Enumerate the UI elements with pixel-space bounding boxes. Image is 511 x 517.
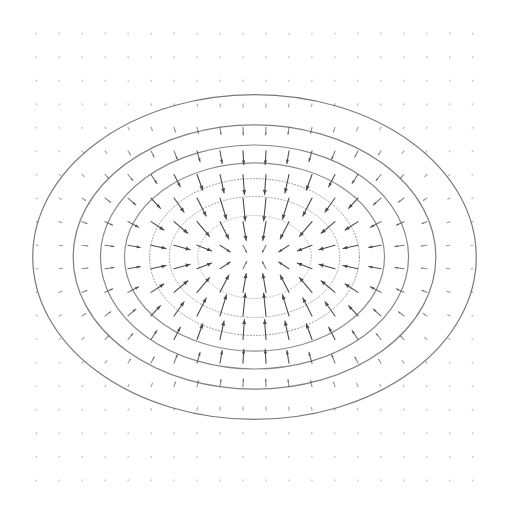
arrow-shaft — [151, 104, 152, 106]
vector-arrow — [59, 362, 60, 363]
arrow-head — [262, 274, 266, 279]
arrow-head — [329, 182, 332, 186]
contour-line-4 — [150, 179, 360, 336]
vector-arrow — [82, 151, 83, 152]
vector-arrow — [174, 408, 175, 410]
arrow-shaft — [380, 384, 381, 386]
arrow-shaft — [128, 384, 129, 386]
vector-arrow — [128, 333, 133, 339]
arrow-head — [345, 284, 350, 288]
vector-arrow — [472, 362, 473, 363]
vector-arrow — [82, 198, 86, 200]
vector-arrow — [174, 302, 184, 316]
arrow-shaft — [36, 362, 37, 363]
arrow-head — [198, 352, 201, 356]
vector-arrow — [59, 315, 61, 316]
arrow-head — [284, 321, 288, 326]
vector-arrow — [343, 245, 358, 249]
vector-arrow — [105, 127, 106, 128]
vector-arrow — [82, 80, 83, 81]
vector-arrow — [380, 384, 381, 386]
vector-arrow — [333, 382, 335, 387]
vector-arrow — [262, 245, 266, 252]
vector-arrow — [299, 222, 312, 237]
vector-arrow — [220, 174, 225, 192]
vector-arrow — [220, 275, 229, 292]
vector-arrow — [36, 174, 37, 175]
vector-arrow — [36, 362, 37, 363]
arrow-shaft — [59, 409, 60, 410]
vector-arrow — [151, 284, 164, 292]
arrow-shaft — [403, 409, 404, 410]
vector-arrow — [449, 386, 450, 387]
vector-arrow — [343, 265, 358, 269]
vector-arrow — [220, 198, 227, 219]
arrow-shaft — [472, 198, 473, 199]
arrow-shaft — [472, 174, 473, 175]
vector-arrow — [449, 151, 450, 152]
vector-arrow — [472, 104, 473, 105]
vector-arrow — [279, 245, 289, 252]
vector-arrow — [472, 57, 473, 58]
arrow-shaft — [128, 127, 129, 129]
arrow-head — [177, 182, 180, 186]
vector-arrow — [59, 198, 61, 199]
vector-arrow — [471, 292, 473, 293]
vector-arrow — [286, 350, 289, 363]
vector-arrow — [403, 127, 404, 128]
vector-arrow — [303, 298, 312, 316]
arrow-head — [242, 379, 244, 381]
contour-line-5 — [169, 197, 339, 318]
vector-arrow — [471, 222, 473, 223]
vector-arrow — [355, 357, 358, 363]
arrow-head — [221, 321, 225, 326]
arrow-shaft — [402, 361, 404, 364]
vector-arrow — [128, 384, 129, 386]
vector-arrow — [174, 355, 177, 364]
arrow-shaft — [36, 433, 37, 434]
arrow-shaft — [449, 104, 450, 105]
vector-arrow — [197, 324, 203, 340]
vector-arrow — [321, 281, 335, 293]
vector-arrow — [105, 385, 106, 386]
vector-arrow — [376, 174, 381, 180]
arrow-shaft — [403, 385, 404, 386]
vector-arrow — [376, 333, 381, 339]
vector-arrow — [282, 198, 289, 219]
vector-arrow — [151, 174, 157, 183]
arrow-head — [263, 190, 267, 195]
arrow-shaft — [426, 104, 427, 105]
vector-arrow — [151, 104, 152, 106]
vector-arrow — [59, 222, 62, 223]
vector-arrow — [151, 222, 164, 230]
vector-arrow — [280, 275, 289, 292]
arrow-head — [242, 190, 246, 195]
vector-arrow — [423, 314, 427, 316]
vector-arrow — [197, 127, 199, 133]
vector-arrow — [151, 409, 152, 411]
arrow-shaft — [151, 127, 152, 130]
arrow-shaft — [472, 362, 473, 363]
vector-arrow — [472, 127, 473, 128]
vector-arrow — [36, 57, 37, 58]
vector-arrow — [286, 151, 289, 164]
vector-arrow — [151, 151, 154, 157]
arrow-head — [223, 295, 227, 300]
vector-arrow — [449, 174, 450, 175]
vector-arrow — [264, 151, 267, 165]
vector-arrow — [373, 198, 381, 205]
arrow-shaft — [426, 127, 427, 128]
vector-arrow — [105, 222, 113, 226]
vector-arrow — [151, 245, 166, 249]
vector-arrow — [447, 222, 450, 223]
vector-arrow — [402, 151, 404, 154]
vector-arrow — [220, 245, 230, 252]
vector-arrow — [36, 104, 37, 105]
vector-arrow — [59, 291, 62, 292]
arrow-shaft — [426, 362, 427, 363]
arrow-shaft — [425, 337, 427, 339]
arrow-shaft — [151, 409, 152, 411]
arrow-shaft — [59, 386, 60, 387]
arrow-shaft — [472, 104, 473, 105]
vector-arrow — [352, 174, 358, 183]
